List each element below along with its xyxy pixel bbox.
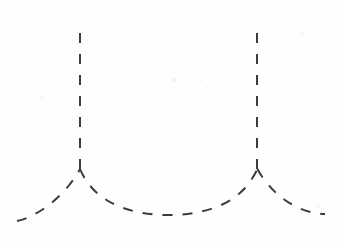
figure-canvas — [0, 0, 340, 242]
dashed-curve-plot — [0, 0, 340, 242]
plot-background — [0, 0, 340, 242]
